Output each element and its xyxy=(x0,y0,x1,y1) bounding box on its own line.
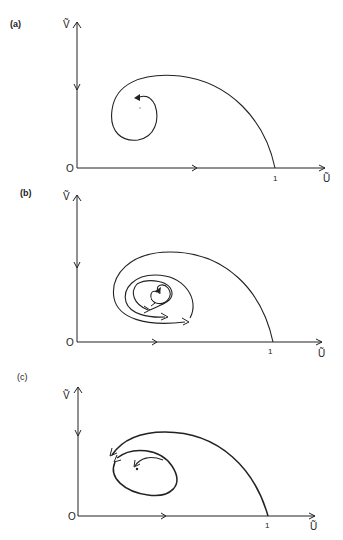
x-tick-label-a: 1 xyxy=(273,174,278,183)
trajectory-outer-b xyxy=(113,252,273,342)
panel-label-c: (c) xyxy=(17,372,28,382)
u-axis-label-b: Ũ xyxy=(318,347,325,359)
u-axis-label-c: Ũ xyxy=(310,520,317,532)
phase-plane-figure: (a) Ṽ O 1 Ũ (b) Ṽ O 1 Ũ xyxy=(0,0,343,540)
equilibrium-point-b xyxy=(159,292,161,294)
origin-label-a: O xyxy=(66,163,74,174)
trajectory-inner2-b xyxy=(133,284,148,310)
trajectory-loop-c xyxy=(113,450,176,495)
v-axis-label-b: Ṽ xyxy=(63,190,70,202)
origin-label-b: O xyxy=(66,337,74,348)
trajectory-arrow-outer-b xyxy=(182,318,189,325)
panel-a: (a) Ṽ O 1 Ũ xyxy=(10,18,330,184)
trajectory-arrow-innermost2-b xyxy=(151,299,155,306)
x-tick-label-b: 1 xyxy=(268,347,273,356)
trajectory-outer-c xyxy=(112,432,268,516)
panel-c: (c) Ṽ O 1 Ũ xyxy=(17,372,317,532)
panel-label-a: (a) xyxy=(10,19,21,29)
trajectory-arrow-a xyxy=(134,94,140,101)
panel-b: (b) Ṽ O 1 Ũ xyxy=(20,188,325,359)
equilibrium-point-c xyxy=(136,468,138,470)
equilibrium-point-a xyxy=(139,107,141,109)
trajectory-inner-b xyxy=(137,281,172,310)
origin-label-c: O xyxy=(68,511,76,522)
x-tick-label-c: 1 xyxy=(265,521,270,530)
v-axis-label-c: Ṽ xyxy=(63,389,70,401)
v-axis-label-a: Ṽ xyxy=(63,18,70,30)
trajectory-a xyxy=(112,75,275,168)
u-axis-label-a: Ũ xyxy=(323,172,330,184)
panel-label-b: (b) xyxy=(20,188,32,198)
